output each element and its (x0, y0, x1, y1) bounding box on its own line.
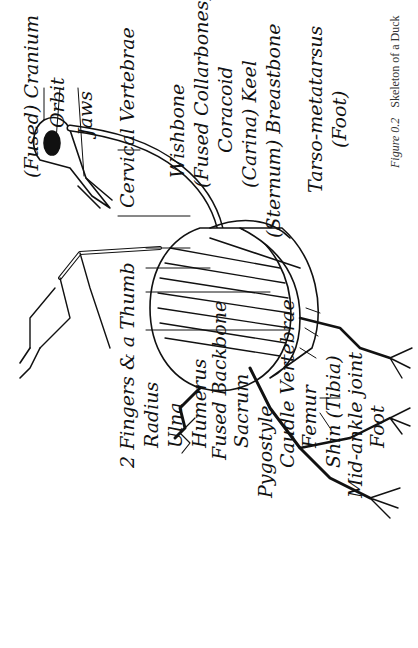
label-fused-backbone: Fused Backbone (210, 301, 229, 460)
label-femur: Femur (300, 385, 319, 448)
label-cervical-vertebrae: Cervical Vertebrae (118, 27, 137, 208)
label-tarso-foot: (Foot) (330, 91, 349, 148)
label-caudal-vertebrae: Caudle Vertebrae (278, 299, 297, 468)
label-foot: Foot (368, 405, 387, 448)
label-mid-ankle-joint: Mid-ankle joint (346, 352, 365, 498)
label-coracoid: Coracoid (216, 66, 235, 153)
label-wishbone: Wishbone (168, 84, 187, 178)
label-breastbone: (Sternum) Breastbone (264, 24, 283, 238)
label-ulna: Ulna (166, 402, 185, 448)
label-radius: Radius (142, 382, 161, 448)
label-humerus: Humerus (190, 359, 209, 448)
figure-title: Skeleton of a Duck (388, 15, 402, 107)
label-shin-tibia: Shin (Tibia) (324, 355, 343, 468)
figure-number: Figure 0.2 (388, 118, 402, 168)
label-fused-collarbones: (Fused Collarbones) (192, 0, 211, 188)
label-sacrum: Sacrum (232, 374, 251, 448)
label-cranium: (Fused) Cranium (22, 15, 41, 178)
label-keel: (Carina) Keel (240, 60, 259, 188)
label-orbit: Orbit (48, 77, 67, 128)
label-jaws: Jaws (76, 91, 95, 136)
label-pygostyle: Pygostyle (256, 405, 275, 498)
label-fingers-thumb: 2 Fingers & a Thumb (118, 262, 137, 468)
diagram-canvas: (Fused) Cranium Orbit Jaws Cervical Vert… (0, 0, 418, 648)
figure-caption: Figure 0.2Skeleton of a Duck (388, 15, 403, 168)
label-tarso-metatarsus: Tarso-metatarsus (306, 26, 325, 193)
